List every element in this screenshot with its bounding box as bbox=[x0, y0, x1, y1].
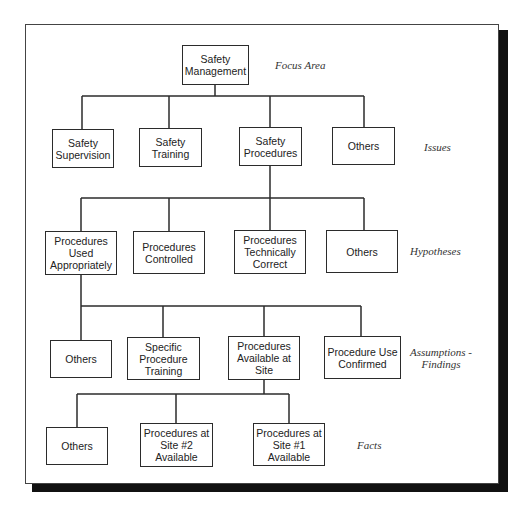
node-procedure-use-confirmed: Procedure Use Confirmed bbox=[324, 336, 401, 379]
node-procedures-used-appropriately: Procedures Used Appropriately bbox=[45, 231, 117, 275]
level-label-hypotheses: Hypotheses bbox=[410, 245, 461, 257]
node-safety-management: Safety Management bbox=[182, 45, 249, 85]
level-label-facts: Facts bbox=[357, 439, 381, 451]
node-facts-others: Others bbox=[46, 427, 108, 465]
node-safety-training: Safety Training bbox=[139, 128, 202, 167]
node-safety-procedures: Safety Procedures bbox=[239, 127, 302, 166]
node-procedures-site-1-available: Procedures at Site #1 Available bbox=[253, 423, 325, 466]
node-safety-supervision: Safety Supervision bbox=[52, 129, 114, 168]
node-procedures-site-2-available: Procedures at Site #2 Available bbox=[140, 423, 213, 467]
node-procedures-technically-correct: Procedures Technically Correct bbox=[234, 230, 306, 274]
node-assumptions-others: Others bbox=[50, 340, 112, 378]
level-label-focus-area: Focus Area bbox=[275, 59, 325, 71]
level-label-issues: Issues bbox=[424, 141, 451, 153]
node-hypotheses-others: Others bbox=[326, 230, 398, 273]
level-label-assumptions-findings: Assumptions - Findings bbox=[410, 346, 472, 370]
node-procedures-controlled: Procedures Controlled bbox=[133, 231, 205, 274]
node-issues-others: Others bbox=[332, 127, 395, 165]
node-procedures-available-at-site: Procedures Available at Site bbox=[228, 336, 300, 380]
node-specific-procedure-training: Specific Procedure Training bbox=[127, 337, 200, 380]
